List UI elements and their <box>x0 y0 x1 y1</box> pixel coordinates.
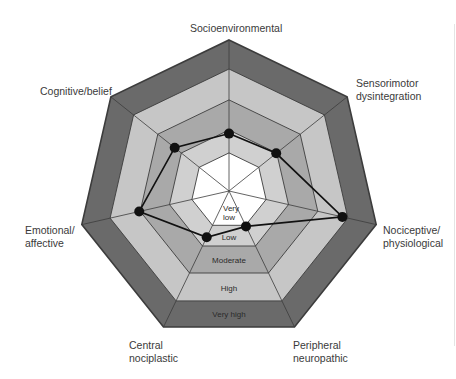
axis-label-line: physiological <box>383 237 443 250</box>
axis-label-text: Cognitive/belief <box>40 85 112 97</box>
axis-label-line: Sensorimotor <box>356 77 421 90</box>
axis-label-line: Emotional/ <box>25 224 75 237</box>
axis-label-line: nociplastic <box>129 352 178 365</box>
axis-label-line: Nociceptive/ <box>383 224 443 237</box>
data-point-emotional <box>134 207 144 217</box>
data-point-peripheral <box>241 221 251 231</box>
axis-label-line: dysintegration <box>356 90 421 103</box>
axis-label-cognitive: Cognitive/belief <box>40 85 112 98</box>
axis-label-text: Socioenvironmental <box>190 22 282 34</box>
data-point-central <box>202 232 212 242</box>
axis-label-emotional: Emotional/ affective <box>25 224 75 250</box>
data-point-socioenvironmental <box>224 129 234 139</box>
band-label-very-high: Very high <box>212 310 245 319</box>
band-label-moderate: Moderate <box>212 256 246 265</box>
band-label-very-low-1: Very <box>223 204 239 213</box>
axis-label-socioenvironmental: Socioenvironmental <box>190 22 282 35</box>
axis-label-line: affective <box>25 237 75 250</box>
page-edge-divider <box>454 24 455 346</box>
axis-label-peripheral: Peripheral neuropathic <box>293 339 348 365</box>
band-label-very-low-2: low <box>223 213 235 222</box>
axis-label-line: neuropathic <box>293 352 348 365</box>
band-label-low: Low <box>222 233 237 242</box>
axis-label-line: Peripheral <box>293 339 348 352</box>
data-point-sensorimotor <box>271 148 281 158</box>
axis-label-central: Central nociplastic <box>129 339 178 365</box>
data-point-cognitive <box>170 143 180 153</box>
axis-label-line: Central <box>129 339 178 352</box>
band-label-high: High <box>221 284 237 293</box>
axis-label-nociceptive: Nociceptive/ physiological <box>383 224 443 250</box>
axis-label-sensorimotor: Sensorimotor dysintegration <box>356 77 421 103</box>
radar-chart: Very low Low Moderate High Very high <box>0 0 456 379</box>
data-point-nociceptive <box>337 212 347 222</box>
